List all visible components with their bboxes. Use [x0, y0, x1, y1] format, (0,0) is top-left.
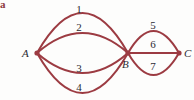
edge-3 — [37, 53, 128, 73]
edges-group — [37, 13, 179, 93]
edge-label-3: 3 — [76, 63, 82, 74]
vertex-C — [176, 50, 181, 55]
edge-label-4: 4 — [76, 82, 82, 93]
vertex-A — [34, 50, 39, 55]
edge-label-7: 7 — [150, 61, 156, 72]
vertex-B — [125, 50, 130, 55]
vertex-label-B: B — [122, 59, 129, 70]
vertex-label-C: C — [184, 48, 191, 59]
vertex-label-A: A — [22, 48, 29, 59]
edge-label-2: 2 — [76, 22, 82, 33]
edge-2 — [37, 33, 128, 53]
edge-label-6: 6 — [150, 39, 156, 50]
edge-label-1: 1 — [76, 4, 82, 15]
edge-label-5: 5 — [150, 20, 156, 31]
figure-container: a 1234567 ABC — [0, 0, 194, 100]
multigraph-diagram — [0, 0, 194, 100]
